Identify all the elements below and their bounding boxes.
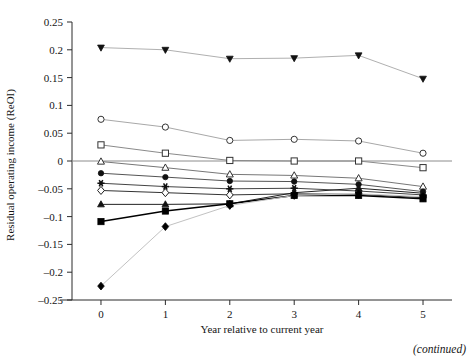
- series-line: [101, 194, 423, 286]
- data-point-marker: [98, 142, 104, 148]
- data-point-marker: [98, 186, 105, 194]
- data-point-marker: [98, 171, 103, 176]
- data-point-marker: [162, 124, 168, 130]
- residual-operating-income-line-chart: 0.250.20.150.10.050–0.05–0.1–0.15–0.2–0.…: [0, 0, 472, 359]
- x-tick-label: 0: [98, 308, 104, 320]
- data-point-marker: [291, 172, 298, 178]
- data-point-marker: [162, 201, 169, 207]
- data-point-marker: [420, 76, 427, 82]
- series-line: [101, 48, 423, 79]
- data-point-marker: [98, 116, 104, 122]
- series-lines: [97, 45, 426, 290]
- y-tick-label: –0.15: [37, 238, 63, 250]
- data-point-marker: [227, 157, 233, 163]
- data-point-marker: [98, 201, 105, 207]
- data-point-marker: [292, 179, 297, 184]
- y-tick-label: –0.25: [37, 294, 63, 306]
- data-point-marker: [97, 180, 104, 186]
- series-10: [98, 190, 427, 290]
- series-line: [101, 162, 423, 187]
- series-1: [98, 45, 427, 82]
- y-tick-label: –0.1: [43, 211, 63, 223]
- x-axis-title: Year relative to current year: [201, 323, 324, 335]
- y-tick-label: 0.15: [44, 72, 64, 84]
- x-tick-label: 1: [163, 308, 169, 320]
- series-line: [101, 145, 423, 168]
- series-line: [101, 195, 423, 221]
- x-tick-label: 2: [227, 308, 233, 320]
- data-point-marker: [420, 150, 426, 156]
- data-point-marker: [162, 189, 169, 197]
- data-point-marker: [227, 178, 232, 183]
- y-tick-label: –0.05: [37, 183, 63, 195]
- series-5: [98, 171, 425, 195]
- data-point-marker: [291, 158, 297, 164]
- data-point-marker: [356, 158, 362, 164]
- data-point-marker: [226, 191, 233, 199]
- series-line: [101, 119, 423, 153]
- data-point-marker: [162, 208, 168, 214]
- x-tick-labels: 012345: [98, 308, 426, 320]
- data-point-marker: [98, 219, 104, 225]
- y-tick-label: –0.2: [43, 266, 63, 278]
- series-2: [98, 116, 426, 156]
- y-tick-label: 0.05: [44, 127, 64, 139]
- data-point-marker: [291, 136, 297, 142]
- x-tick-label: 3: [291, 308, 297, 320]
- data-point-marker: [291, 56, 298, 62]
- chart-figure: 0.250.20.150.10.050–0.05–0.1–0.15–0.2–0.…: [0, 0, 472, 359]
- data-point-marker: [162, 150, 168, 156]
- y-tick-label: 0: [58, 155, 64, 167]
- data-point-marker: [227, 137, 233, 143]
- y-tick-label: 0.2: [49, 44, 63, 56]
- x-tick-label: 5: [420, 308, 426, 320]
- series-9: [98, 192, 426, 224]
- y-axis-title: Residual operating income (ReOI): [4, 89, 17, 241]
- data-point-marker: [356, 138, 362, 144]
- x-tick-label: 4: [356, 308, 362, 320]
- data-point-marker: [420, 165, 426, 171]
- data-point-marker: [226, 56, 233, 62]
- y-tick-label: 0.25: [44, 16, 64, 28]
- data-point-marker: [163, 174, 168, 179]
- continued-annotation: (continued): [413, 343, 466, 355]
- y-tick-label: 0.1: [49, 99, 63, 111]
- y-tick-labels: 0.250.20.150.10.050–0.05–0.1–0.15–0.2–0.…: [37, 16, 63, 306]
